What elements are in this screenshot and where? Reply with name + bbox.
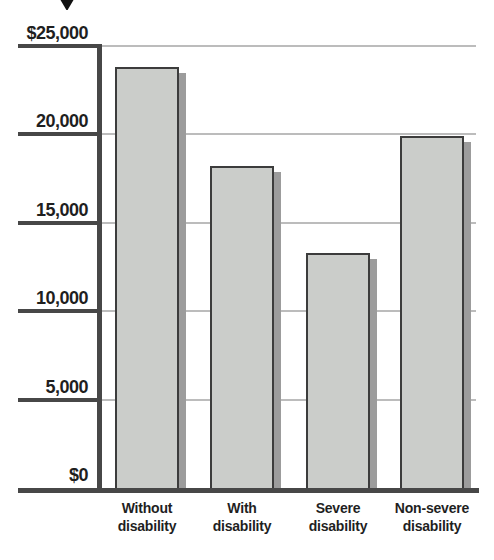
y-tick-label: 10,000: [36, 288, 88, 309]
y-tick-label: 5,000: [45, 377, 88, 398]
bar-shadow-severe-disability: [370, 259, 377, 488]
y-tick-label: $25,000: [26, 23, 88, 44]
bar-shadow-non-severe-disability: [464, 142, 471, 488]
down-arrow-icon: [59, 0, 75, 10]
y-tick-mark: [18, 132, 102, 136]
category-label-non-severe-disability: Non-severe disability: [372, 500, 492, 535]
y-tick-label: $0: [69, 465, 88, 486]
y-axis-line: [97, 44, 102, 493]
y-tick-label: 15,000: [36, 200, 88, 221]
bar-without-disability: [115, 67, 179, 490]
y-tick-mark: [18, 398, 102, 402]
bar-shadow-with-disability: [274, 172, 281, 488]
x-axis-line: [18, 488, 479, 493]
bar-with-disability: [210, 166, 274, 490]
bar-severe-disability: [306, 253, 370, 490]
bar-chart-figure: $25,00020,00015,00010,0005,000$0Without …: [0, 0, 494, 560]
bar-non-severe-disability: [400, 136, 464, 490]
y-tick-mark: [18, 44, 102, 48]
y-tick-mark: [18, 221, 102, 225]
y-tick-label: 20,000: [36, 111, 88, 132]
y-gridline: [102, 45, 476, 47]
y-tick-mark: [18, 309, 102, 313]
bar-shadow-without-disability: [179, 73, 186, 488]
